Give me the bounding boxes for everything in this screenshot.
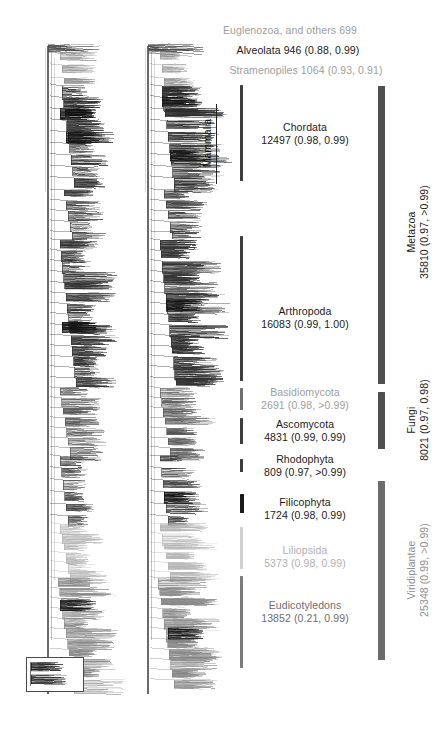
inset-tree-canvas bbox=[27, 658, 83, 691]
clade-name: Rhodophyta bbox=[225, 453, 385, 466]
group-bar-viridiplantae bbox=[378, 481, 385, 660]
mammalia-rule bbox=[216, 104, 217, 184]
group-label-viridiplantae: Viridiplantae 25348 (0.99, >0.99) bbox=[405, 470, 431, 670]
clade-name: Arthropoda bbox=[225, 305, 385, 318]
clade-stats: 5373 (0.98, 0.99) bbox=[225, 557, 385, 570]
group-name: Metazoa bbox=[405, 132, 418, 332]
clade-stats: 1724 (0.98, 0.99) bbox=[225, 509, 385, 522]
clade-stats: 12497 (0.98, 0.99) bbox=[225, 134, 385, 147]
clade-name: Liliopsida bbox=[225, 544, 385, 557]
magnified-clade-inset bbox=[26, 657, 84, 692]
group-name: Viridiplantae bbox=[405, 470, 418, 670]
header-label-alveolata: Alveolata 946 (0.88, 0.99) bbox=[138, 44, 443, 56]
clade-stats: 809 (0.97, >0.99) bbox=[225, 466, 385, 479]
group-bar-metazoa bbox=[378, 86, 385, 384]
header-label-stramenopiles: Stramenopiles 1064 (0.93, 0.91) bbox=[146, 64, 443, 76]
clade-label-chordata: Chordata 12497 (0.98, 0.99) bbox=[225, 121, 385, 146]
clade-name: Basidiomycota bbox=[225, 386, 385, 399]
clade-stats: 2691 (0.98, >0.99) bbox=[225, 399, 385, 412]
group-label-metazoa: Metazoa 35810 (0.97, >0.99) bbox=[405, 132, 431, 332]
clade-name: Chordata bbox=[225, 121, 385, 134]
clade-stats: 16083 (0.99, 1.00) bbox=[225, 318, 385, 331]
clade-label-rhodophyta: Rhodophyta 809 (0.97, >0.99) bbox=[225, 453, 385, 478]
clade-name: Filicophyta bbox=[225, 496, 385, 509]
clade-name: Ascomycota bbox=[225, 418, 385, 431]
mammalia-label: Mammalia bbox=[201, 103, 215, 183]
tree-right bbox=[146, 44, 232, 694]
clade-stats: 13852 (0.21, 0.99) bbox=[225, 612, 385, 625]
group-stats: 25348 (0.99, >0.99) bbox=[418, 470, 431, 670]
clade-label-liliopsida: Liliopsida 5373 (0.98, 0.99) bbox=[225, 544, 385, 569]
clade-label-ascomycota: Ascomycota 4831 (0.99, 0.99) bbox=[225, 418, 385, 443]
clade-label-filicophyta: Filicophyta 1724 (0.98, 0.99) bbox=[225, 496, 385, 521]
group-bar-fungi bbox=[378, 392, 385, 449]
group-stats: 35810 (0.97, >0.99) bbox=[418, 132, 431, 332]
header-label-euglenozoa: Euglenozoa, and others 699 bbox=[130, 24, 443, 36]
clade-name: Eudicotyledons bbox=[225, 599, 385, 612]
clade-stats: 4831 (0.99, 0.99) bbox=[225, 431, 385, 444]
phylogenetic-tree-figure: Euglenozoa, and others 699 Alveolata 946… bbox=[0, 0, 443, 732]
clade-label-basidiomycota: Basidiomycota 2691 (0.98, >0.99) bbox=[225, 386, 385, 411]
clade-label-eudicotyledons: Eudicotyledons 13852 (0.21, 0.99) bbox=[225, 599, 385, 624]
clade-label-arthropoda: Arthropoda 16083 (0.99, 1.00) bbox=[225, 305, 385, 330]
